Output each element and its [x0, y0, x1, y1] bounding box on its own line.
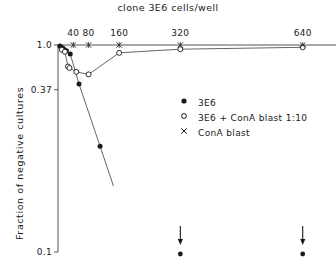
legend-item[interactable]: 3E6: [178, 95, 336, 110]
figure-container: clone 3E6 cells/well Fraction of negativ…: [0, 0, 336, 267]
filled-circle-icon: [178, 95, 198, 110]
y-tick-marks: [54, 45, 58, 252]
open-circle-icon: [178, 110, 198, 125]
legend-item-label: 3E6 + ConA blast 1:10: [198, 113, 307, 123]
annotation-arrows: [178, 226, 306, 256]
cross-icon: [178, 125, 198, 140]
legend-item[interactable]: ConA blast: [178, 125, 336, 140]
legend-item-label: ConA blast: [198, 128, 250, 138]
legend-item[interactable]: 3E6 + ConA blast 1:10: [178, 110, 336, 125]
legend: 3E6 3E6 + ConA blast 1:10 ConA blast: [178, 95, 336, 140]
legend-item-label: 3E6: [198, 98, 216, 108]
